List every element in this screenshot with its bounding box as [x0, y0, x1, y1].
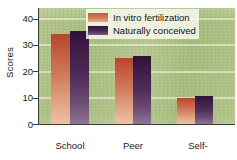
legend-label-ivf: In vitro fertilization — [113, 13, 190, 23]
bar-self-esteem-natural — [195, 96, 213, 124]
legend-label-natural: Naturally conceived — [113, 26, 196, 36]
bar-peer-relations-natural — [133, 56, 151, 124]
legend-item-in-vitro-fertilization: In vitro fertilization — [88, 11, 196, 24]
y-tick-mark-20 — [33, 71, 38, 72]
bar-school-functioning-ivf — [51, 34, 70, 124]
y-tick-mark-10 — [33, 98, 38, 99]
bar-peer-relations-ivf — [115, 58, 133, 124]
category-line-1: School — [31, 140, 109, 152]
y-tick-label-0: 0 — [0, 120, 33, 130]
y-tick-label-20: 20 — [0, 67, 33, 77]
bar-chart: Scores 40 30 20 10 0 S — [0, 0, 237, 160]
bar-self-esteem-ivf — [177, 98, 195, 124]
y-tick-text-20: 20 — [22, 66, 33, 77]
category-line-1: Self- — [166, 140, 230, 152]
category-line-1: Peer — [100, 140, 166, 152]
y-tick-mark-0 — [33, 124, 38, 125]
x-axis-line — [38, 124, 235, 125]
y-tick-label-10: 10 — [0, 93, 33, 103]
x-category-label-peer-relations: Peer relations — [100, 128, 166, 160]
x-category-label-self-esteem: Self- esteem — [166, 128, 230, 160]
y-tick-label-30: 30 — [0, 40, 33, 50]
y-tick-label-40: 40 — [0, 14, 33, 24]
legend-swatch-icon-ivf — [88, 13, 108, 22]
legend-swatch-icon-natural — [88, 26, 108, 35]
bar-school-functioning-natural — [70, 31, 89, 124]
x-category-label-school-functioning: School functioning — [31, 128, 109, 160]
y-tick-mark-40 — [33, 19, 38, 20]
y-tick-text-40: 40 — [22, 13, 33, 24]
y-tick-text-10: 10 — [22, 92, 33, 103]
y-tick-text-30: 30 — [22, 39, 33, 50]
y-tick-mark-30 — [33, 45, 38, 46]
legend-item-naturally-conceived: Naturally conceived — [88, 24, 196, 37]
legend: In vitro fertilization Naturally conceiv… — [86, 9, 199, 39]
y-axis-line — [38, 8, 39, 125]
